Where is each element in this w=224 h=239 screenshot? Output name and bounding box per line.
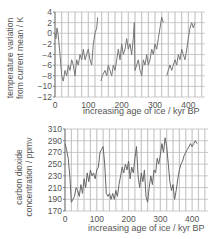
y-tick-label: 290: [48, 136, 62, 146]
y-tick-label: 2: [47, 18, 52, 28]
co2-x-axis-label: increasing age of ice / kyr BP: [88, 223, 205, 233]
y-tick-label: 230: [48, 171, 62, 181]
x-tick-label: 0: [53, 100, 58, 110]
y-tick-label: −2: [42, 39, 52, 49]
x-tick-label: 0: [63, 214, 68, 224]
co2-chart: carbon dioxide concentration / ppmv 3102…: [0, 120, 224, 239]
y-tick-label: −12: [38, 92, 53, 102]
temperature-chart: temperature variation from current mean …: [0, 0, 224, 120]
y-tick-label: −4: [42, 50, 52, 60]
y-tick-label: 210: [48, 183, 62, 193]
y-tick-label: −6: [42, 60, 52, 70]
y-tick-label: 270: [48, 147, 62, 157]
y-tick-label: 310: [48, 124, 62, 134]
y-tick-label: 4: [47, 7, 52, 17]
co2-plot: 3102902702502302101901700100200300400: [0, 120, 224, 239]
y-tick-label: 250: [48, 159, 62, 169]
y-tick-label: 0: [47, 28, 52, 38]
y-tick-label: 170: [48, 206, 62, 216]
y-tick-label: 190: [48, 194, 62, 204]
data-series-line: [55, 17, 195, 81]
data-series-line: [65, 138, 197, 202]
temperature-plot: 420−2−4−6−8−10−120100200300400: [0, 0, 224, 120]
temperature-x-axis-label: increasing age of ice / kyr BP: [83, 106, 200, 116]
y-tick-label: −8: [42, 71, 52, 81]
y-tick-label: −10: [38, 81, 53, 91]
